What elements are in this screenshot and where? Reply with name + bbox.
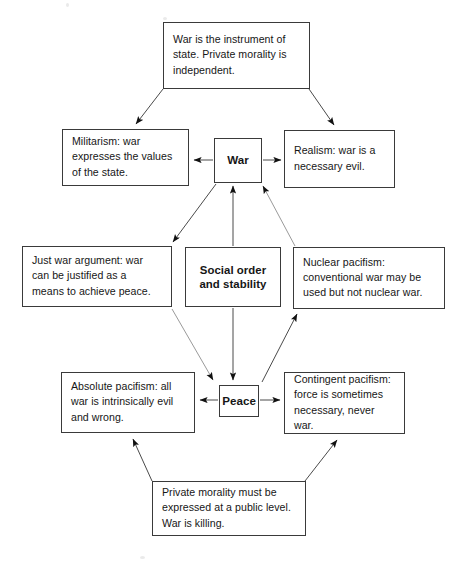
concept-map-diagram: War is the instrument of state. Private … [0,0,461,564]
node-just-war[interactable]: Just war argument: war can be justified … [22,246,172,307]
node-social-order-label: Social order and stability [200,263,267,292]
node-contingent-pacifism[interactable]: Contingent pacifism: force is sometimes … [284,372,405,434]
edge-bottom-premise-to-contingent-pacifism [305,440,337,481]
node-just-war-label: Just war argument: war can be justified … [32,253,151,299]
node-nuclear-pacifism[interactable]: Nuclear pacifism: conventional war may b… [293,247,445,309]
node-realism[interactable]: Realism: war is a necessary evil. [284,130,395,188]
node-bottom-premise[interactable]: Private morality must be expressed at a … [152,481,306,536]
edge-war-to-just-war [173,184,216,242]
node-nuclear-pacifism-label: Nuclear pacifism: conventional war may b… [303,255,422,301]
node-top-premise-label: War is the instrument of state. Private … [173,32,287,78]
node-peace[interactable]: Peace [219,385,259,417]
node-militarism[interactable]: Militarism: war expresses the values of … [62,129,189,186]
scan-artifact [163,17,167,20]
node-war-label: War [227,153,249,167]
scan-artifact [140,556,145,559]
edge-top-premise-to-militarism [136,89,163,124]
edge-just-war-to-peace [172,309,213,380]
node-militarism-label: Militarism: war expresses the values of … [72,134,172,180]
node-top-premise[interactable]: War is the instrument of state. Private … [163,22,310,89]
node-peace-label: Peace [222,394,256,408]
node-bottom-premise-label: Private morality must be expressed at a … [162,485,291,531]
node-contingent-pacifism-label: Contingent pacifism: force is sometimes … [294,372,396,433]
node-absolute-pacifism-label: Absolute pacifism: all war is intrinsica… [71,379,173,425]
node-absolute-pacifism[interactable]: Absolute pacifism: all war is intrinsica… [61,372,195,433]
node-realism-label: Realism: war is a necessary evil. [294,143,375,173]
edge-nuclear-pacifism-to-war [263,186,295,246]
node-social-order[interactable]: Social order and stability [185,247,281,307]
node-war[interactable]: War [214,138,262,183]
edge-top-premise-to-realism [309,89,334,125]
edge-bottom-premise-to-absolute-pacifism [133,439,152,481]
scan-artifact [66,3,69,7]
